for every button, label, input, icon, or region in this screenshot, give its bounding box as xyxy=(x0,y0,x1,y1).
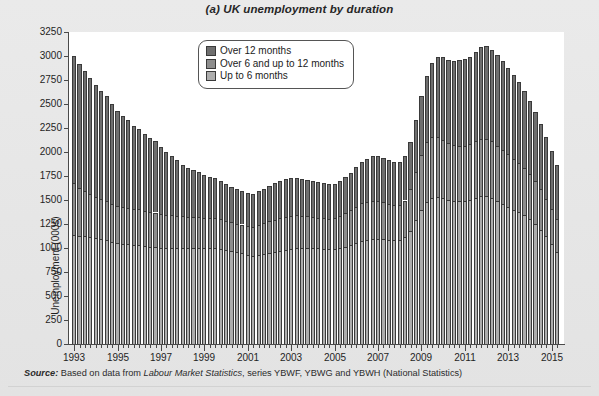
x-axis-major-tick xyxy=(248,345,249,351)
bar-column xyxy=(99,91,103,344)
bar-segment xyxy=(338,248,342,344)
bar-segment xyxy=(468,200,472,344)
x-axis-tick-label: 1999 xyxy=(184,352,224,363)
bar-segment xyxy=(278,181,282,218)
bar-column xyxy=(501,61,505,344)
bar-column xyxy=(387,160,391,344)
bar-segment xyxy=(251,256,255,344)
bar-segment xyxy=(197,248,201,344)
bar-segment xyxy=(115,243,119,344)
bar-segment xyxy=(175,216,179,248)
page-title: (a) UK unemployment by duration xyxy=(0,3,599,15)
x-axis-major-tick xyxy=(465,345,466,351)
bar-segment xyxy=(110,204,114,242)
source-label: Source: xyxy=(24,368,58,378)
bar-segment xyxy=(132,209,136,245)
x-axis-tick-mark xyxy=(367,345,368,348)
bar-segment xyxy=(94,238,98,344)
x-axis-tick-mark xyxy=(107,345,108,348)
bar-segment xyxy=(213,218,217,248)
bar-segment xyxy=(262,254,266,344)
x-axis-tick-mark xyxy=(177,345,178,348)
x-axis-tick-mark xyxy=(427,345,428,348)
bar-segment xyxy=(539,230,543,344)
bar-segment xyxy=(110,104,114,204)
bar-segment xyxy=(512,75,516,159)
x-axis-tick-mark xyxy=(514,345,515,348)
bar-segment xyxy=(191,170,195,217)
bar-segment xyxy=(468,144,472,200)
bar-segment xyxy=(235,189,239,224)
y-axis-tick-label: 1750 xyxy=(0,170,62,181)
bar-segment xyxy=(436,57,440,137)
x-axis-tick-mark xyxy=(351,345,352,348)
bar-segment xyxy=(175,160,179,216)
x-axis-tick-mark xyxy=(297,345,298,348)
bar-segment xyxy=(414,220,418,344)
bar-segment xyxy=(273,252,277,344)
x-axis-tick-mark xyxy=(443,345,444,348)
bar-segment xyxy=(333,218,337,249)
bar-segment xyxy=(539,124,543,189)
bar-segment xyxy=(452,61,456,145)
bar-segment xyxy=(398,205,402,241)
x-axis-tick-label: 2007 xyxy=(358,352,398,363)
x-axis-tick-label: 2013 xyxy=(488,352,528,363)
bar-column xyxy=(143,134,147,344)
bar-segment xyxy=(278,218,282,251)
bar-column xyxy=(414,120,418,344)
x-axis-tick-label: 1993 xyxy=(54,352,94,363)
x-axis-tick-label: 2003 xyxy=(271,352,311,363)
bar-segment xyxy=(316,248,320,344)
x-axis-tick-mark xyxy=(259,345,260,348)
x-axis-tick-mark xyxy=(242,345,243,348)
bar-column xyxy=(251,194,255,344)
bar-segment xyxy=(441,57,445,140)
x-axis-tick-mark xyxy=(96,345,97,348)
bar-segment xyxy=(246,226,250,254)
x-axis-major-tick xyxy=(74,345,75,351)
x-axis-tick-mark xyxy=(150,345,151,348)
bar-segment xyxy=(240,191,244,225)
bar-column xyxy=(484,46,488,344)
bar-segment xyxy=(305,248,309,344)
x-axis-tick-mark xyxy=(394,345,395,348)
bar-segment xyxy=(322,218,326,249)
bar-column xyxy=(72,56,76,344)
bar-column xyxy=(333,184,337,344)
bar-segment xyxy=(202,175,206,218)
bar-column xyxy=(170,156,174,344)
bar-segment xyxy=(408,189,412,230)
bar-segment xyxy=(213,248,217,344)
bar-segment xyxy=(479,196,483,344)
bar-segment xyxy=(479,47,483,138)
bar-segment xyxy=(349,245,353,344)
legend-label: Over 6 and up to 12 months xyxy=(220,58,344,71)
bar-segment xyxy=(495,201,499,344)
bar-segment xyxy=(170,248,174,344)
bar-segment xyxy=(484,46,488,138)
x-axis-line xyxy=(68,344,565,345)
bar-segment xyxy=(539,189,543,229)
bar-segment xyxy=(143,246,147,344)
x-axis-tick-mark xyxy=(280,345,281,348)
x-axis-tick-mark xyxy=(470,345,471,348)
bar-segment xyxy=(501,204,505,344)
x-axis-tick-mark xyxy=(215,345,216,348)
bar-column xyxy=(164,152,168,344)
bar-segment xyxy=(474,141,478,198)
x-axis-tick-mark xyxy=(530,345,531,348)
bar-column xyxy=(474,52,478,344)
bar-column xyxy=(229,187,233,344)
bar-segment xyxy=(273,220,277,252)
source-note: Source: Based on data from Labour Market… xyxy=(24,368,462,378)
bar-segment xyxy=(506,154,510,206)
bar-column xyxy=(219,181,223,344)
x-axis-tick-mark xyxy=(356,345,357,348)
bar-column xyxy=(273,183,277,344)
x-axis-major-tick xyxy=(378,345,379,351)
bar-segment xyxy=(457,60,461,145)
bar-segment xyxy=(517,163,521,212)
bar-segment xyxy=(360,162,364,203)
bar-column xyxy=(349,173,353,344)
